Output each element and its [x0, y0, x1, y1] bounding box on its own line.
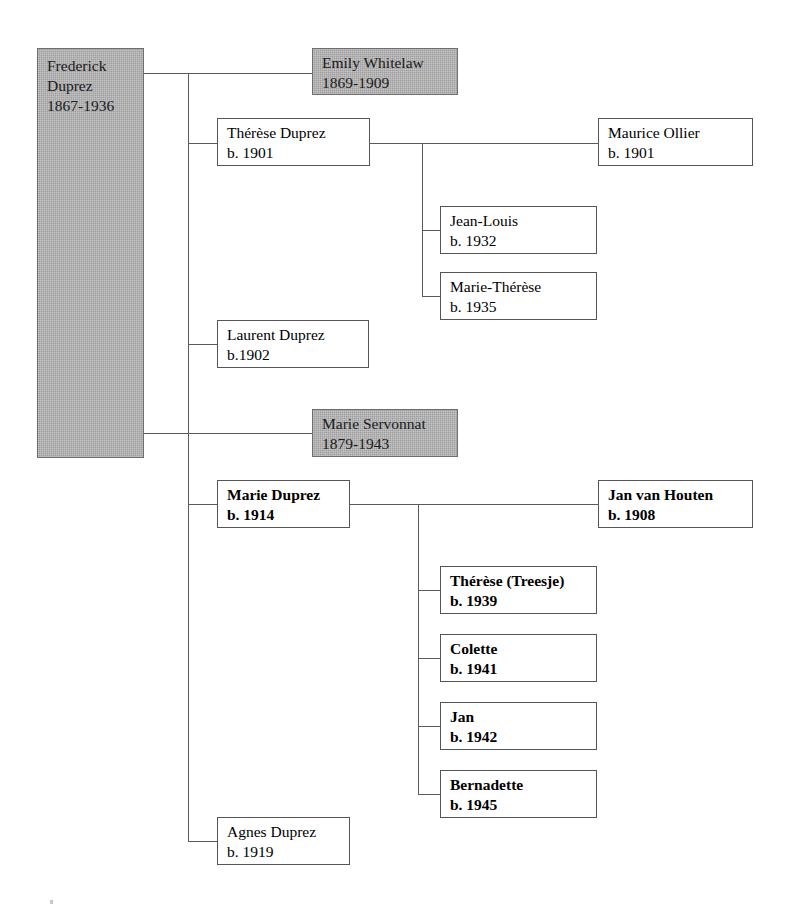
- person-box-marie-duprez[interactable]: Marie Duprez b. 1914: [217, 480, 350, 528]
- person-dates: b.1902: [227, 345, 361, 365]
- person-dates: b. 1932: [450, 231, 589, 251]
- person-dates: b. 1939: [450, 591, 589, 611]
- connector-frederick-emily: [144, 73, 312, 74]
- scan-artifact-speck: [50, 900, 53, 904]
- person-dates: b. 1919: [227, 842, 342, 862]
- person-dates: b. 1908: [608, 505, 745, 525]
- person-name-line2: Duprez: [47, 76, 136, 96]
- person-dates: b. 1914: [227, 505, 342, 525]
- person-dates: 1869-1909: [322, 73, 450, 93]
- connector-child-bernadette: [418, 794, 440, 795]
- person-name-line1: Frederick: [47, 56, 136, 76]
- connector-child-therese-treesje: [418, 590, 440, 591]
- person-dates: b. 1941: [450, 659, 589, 679]
- person-name: Thérèse (Treesje): [450, 571, 589, 591]
- person-dates: b. 1942: [450, 727, 589, 747]
- connector-frederick-servonnat: [144, 433, 312, 434]
- person-box-marie-servonnat[interactable]: Marie Servonnat 1879-1943: [312, 409, 458, 457]
- person-box-maurice-ollier[interactable]: Maurice Ollier b. 1901: [598, 118, 753, 166]
- person-name: Emily Whitelaw: [322, 53, 450, 73]
- connector-therese-maurice: [370, 143, 598, 144]
- person-name: Marie Duprez: [227, 485, 342, 505]
- person-name: Jan: [450, 707, 589, 727]
- person-name: Bernadette: [450, 775, 589, 795]
- connector-therese-children-trunk: [422, 143, 423, 296]
- person-box-therese-treesje[interactable]: Thérèse (Treesje) b. 1939: [440, 566, 597, 614]
- person-box-emily-whitelaw[interactable]: Emily Whitelaw 1869-1909: [312, 48, 458, 95]
- person-box-laurent-duprez[interactable]: Laurent Duprez b.1902: [217, 320, 369, 368]
- connector-trunk-therese: [188, 143, 217, 144]
- person-box-bernadette[interactable]: Bernadette b. 1945: [440, 770, 597, 818]
- connector-marie-jan: [350, 504, 598, 505]
- person-name: Laurent Duprez: [227, 325, 361, 345]
- person-dates: b. 1901: [227, 143, 362, 163]
- person-box-therese-duprez[interactable]: Thérèse Duprez b. 1901: [217, 118, 370, 166]
- person-box-agnes-duprez[interactable]: Agnes Duprez b. 1919: [217, 817, 350, 865]
- connector-trunk-marie: [188, 504, 217, 505]
- connector-trunk-laurent: [188, 344, 217, 345]
- person-dates: b. 1945: [450, 795, 589, 815]
- connector-main-trunk: [188, 73, 189, 841]
- person-name: Agnes Duprez: [227, 822, 342, 842]
- person-box-colette[interactable]: Colette b. 1941: [440, 634, 597, 682]
- person-name: Thérèse Duprez: [227, 123, 362, 143]
- person-dates: b. 1901: [608, 143, 745, 163]
- person-name: Maurice Ollier: [608, 123, 745, 143]
- person-box-jan[interactable]: Jan b. 1942: [440, 702, 597, 750]
- person-name: Colette: [450, 639, 589, 659]
- person-name: Marie Servonnat: [322, 414, 450, 434]
- person-box-frederick-duprez[interactable]: Frederick Duprez 1867-1936: [37, 48, 144, 458]
- connector-marie-children-trunk: [418, 504, 419, 794]
- connector-child-marie-therese: [422, 296, 440, 297]
- person-name: Marie-Thérèse: [450, 277, 589, 297]
- person-name: Jan van Houten: [608, 485, 745, 505]
- person-box-marie-therese[interactable]: Marie-Thérèse b. 1935: [440, 272, 597, 320]
- person-dates: 1867-1936: [47, 96, 136, 116]
- connector-child-colette: [418, 658, 440, 659]
- connector-child-jean-louis: [422, 230, 440, 231]
- connector-trunk-agnes: [188, 841, 217, 842]
- person-dates: 1879-1943: [322, 434, 450, 454]
- person-name: Jean-Louis: [450, 211, 589, 231]
- person-dates: b. 1935: [450, 297, 589, 317]
- connector-child-jan: [418, 726, 440, 727]
- person-box-jean-louis[interactable]: Jean-Louis b. 1932: [440, 206, 597, 254]
- family-tree-diagram: Frederick Duprez 1867-1936 Emily Whitela…: [0, 0, 795, 920]
- person-box-jan-van-houten[interactable]: Jan van Houten b. 1908: [598, 480, 753, 528]
